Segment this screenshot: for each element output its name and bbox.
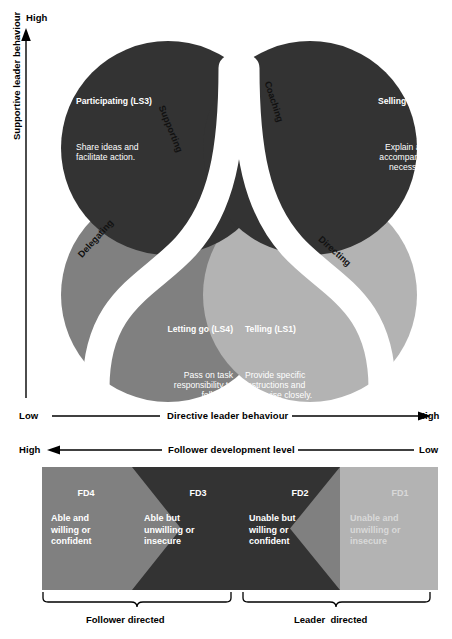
style-body-ls3: Share ideas and facilitate action. — [76, 142, 211, 162]
style-body-ls2: Explain and accompany if necessary. — [300, 142, 430, 172]
style-label-ls4: Letting go (LS4) Pass on task responsibi… — [100, 288, 233, 436]
style-label-ls1: Telling (LS1) Provide specific instructi… — [245, 288, 380, 436]
style-label-ls3: Participating (LS3) Share ideas and faci… — [76, 60, 211, 198]
follower-axis-high-label: High — [19, 444, 41, 455]
vertical-axis-title: Supportive leader behaviour — [11, 0, 22, 140]
brace-label-leader-directed: Leader directed — [294, 614, 367, 625]
style-title-ls3: Participating (LS3) — [76, 96, 211, 106]
follower-axis-low-label: Low — [419, 444, 438, 455]
situational-leadership-diagram: Supportive leader behaviour High Low Dir… — [0, 0, 452, 639]
vertical-axis-high-label: High — [26, 12, 48, 23]
follower-axis-title: Follower development level — [168, 444, 295, 455]
fd1-description: Unable and unwilling or insecure — [350, 513, 401, 548]
style-title-ls1: Telling (LS1) — [245, 324, 380, 334]
style-title-ls2: Selling (LS2) — [300, 96, 430, 106]
fd4-label: FD4 — [48, 488, 124, 498]
fd3-description: Able but unwilling or insecure — [144, 513, 195, 548]
fd2-label: FD2 — [262, 488, 338, 498]
fd1-label: FD1 — [362, 488, 438, 498]
style-label-ls2: Selling (LS2) Explain and accompany if n… — [300, 60, 430, 208]
fd2-description: Unable but willing or confident — [249, 513, 296, 548]
directive-axis-high-label: High — [418, 410, 440, 421]
brace-label-follower-directed: Follower directed — [86, 614, 165, 625]
fd3-label: FD3 — [160, 488, 236, 498]
fd4-description: Able and willing or confident — [51, 513, 92, 548]
style-body-ls4: Pass on task responsibility to follower. — [100, 370, 233, 400]
directive-axis-low-label: Low — [19, 410, 38, 421]
style-body-ls1: Provide specific instructions and superv… — [245, 370, 380, 400]
style-title-ls4: Letting go (LS4) — [100, 324, 233, 334]
